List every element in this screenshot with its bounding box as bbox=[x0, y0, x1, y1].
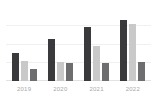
bar bbox=[93, 46, 100, 81]
bar bbox=[21, 61, 28, 81]
plot-area bbox=[6, 8, 151, 81]
x-tick-label: 2021 bbox=[79, 84, 115, 96]
x-tick-label: 2022 bbox=[115, 84, 151, 96]
bar-group bbox=[42, 8, 78, 81]
bar bbox=[66, 63, 73, 81]
bar bbox=[57, 62, 64, 81]
bar bbox=[102, 63, 109, 81]
x-axis-labels: 2019202020212022 bbox=[6, 84, 151, 96]
bar bbox=[129, 24, 136, 81]
bar-groups bbox=[6, 8, 151, 81]
x-tick-label: 2020 bbox=[42, 84, 78, 96]
bar-group bbox=[6, 8, 42, 81]
bar bbox=[12, 53, 19, 81]
bar bbox=[48, 39, 55, 81]
bar-group bbox=[79, 8, 115, 81]
x-tick-label: 2019 bbox=[6, 84, 42, 96]
bar bbox=[138, 62, 145, 81]
bar bbox=[30, 69, 37, 81]
bar-group bbox=[115, 8, 151, 81]
bar-chart: 2019202020212022 bbox=[0, 0, 155, 100]
bar bbox=[84, 27, 91, 81]
bar bbox=[120, 20, 127, 81]
